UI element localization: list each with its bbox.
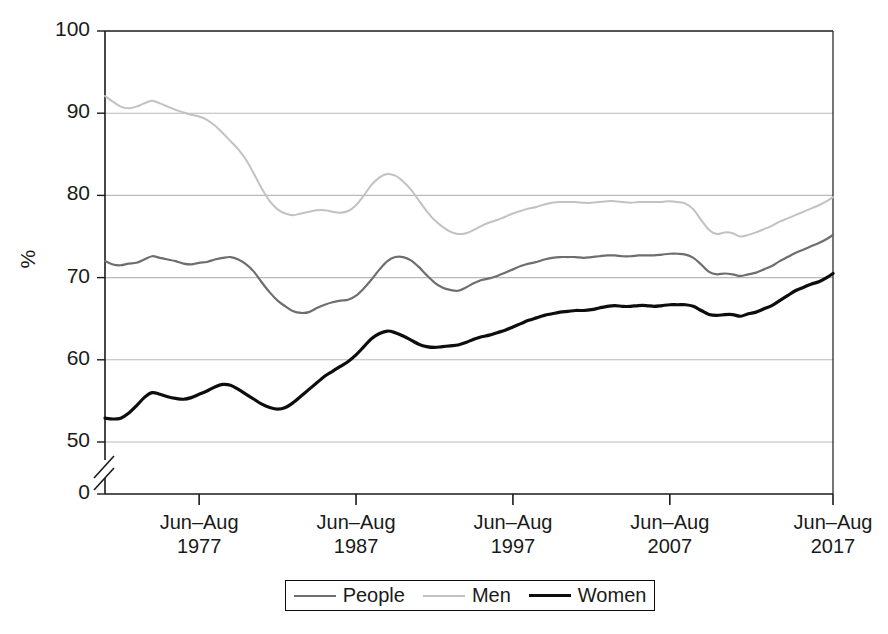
x-tick-label-year: 2007 (590, 535, 750, 559)
y-tick-label-0: 0 (28, 480, 90, 504)
x-tick-label-period: Jun–Aug (590, 511, 750, 535)
y-tick-label-80: 80 (28, 181, 90, 205)
legend-label-men: Men (472, 584, 511, 607)
x-tick-label-year: 1997 (433, 535, 593, 559)
y-tick-label-100: 100 (28, 17, 90, 41)
axis-break-slash-1 (94, 456, 114, 478)
legend-label-people: People (343, 584, 405, 607)
series-line-men (105, 96, 833, 237)
y-tick-label-90: 90 (28, 99, 90, 123)
legend-item-women[interactable]: Women (520, 584, 656, 607)
x-tick-label-1977: Jun–Aug1977 (119, 511, 279, 558)
x-tick-label-1997: Jun–Aug1997 (433, 511, 593, 558)
legend-swatch-people (294, 595, 336, 597)
series-line-women (105, 273, 833, 418)
chart-figure: % 10090807060500 Jun–Aug1977Jun–Aug1987J… (0, 0, 888, 634)
legend-swatch-men (423, 595, 465, 597)
x-tick-label-period: Jun–Aug (753, 511, 888, 535)
legend-swatch-women (529, 594, 571, 597)
x-tick-label-period: Jun–Aug (433, 511, 593, 535)
chart-legend: PeopleMenWomen (285, 580, 655, 611)
x-tick-label-2007: Jun–Aug2007 (590, 511, 750, 558)
legend-item-people[interactable]: People (285, 584, 414, 607)
legend-item-men[interactable]: Men (414, 584, 520, 607)
series-line-people (105, 235, 833, 313)
legend-label-women: Women (578, 584, 647, 607)
x-tick-label-year: 2017 (753, 535, 888, 559)
y-tick-label-70: 70 (28, 264, 90, 288)
gridlines-group (105, 31, 833, 442)
y-tick-label-50: 50 (28, 428, 90, 452)
x-tick-label-period: Jun–Aug (276, 511, 436, 535)
tick-marks-group (97, 31, 833, 505)
x-tick-label-1987: Jun–Aug1987 (276, 511, 436, 558)
axis-break-slash-2 (94, 468, 114, 490)
x-tick-label-year: 1987 (276, 535, 436, 559)
x-tick-label-period: Jun–Aug (119, 511, 279, 535)
x-tick-label-2017: Jun–Aug2017 (753, 511, 888, 558)
data-series-group (105, 96, 833, 419)
y-tick-label-60: 60 (28, 346, 90, 370)
x-tick-label-year: 1977 (119, 535, 279, 559)
